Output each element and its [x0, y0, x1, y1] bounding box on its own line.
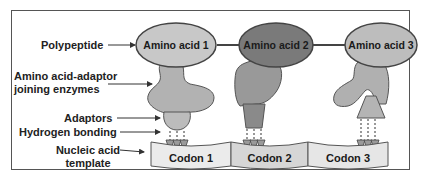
label-template-1: Nucleic acid [53, 144, 123, 157]
adaptor-2 [243, 104, 265, 128]
codon-2-label: Codon 2 [231, 152, 308, 164]
label-joining-enzymes-1: Amino acid-adaptor [14, 70, 117, 83]
label-joining-enzymes-2: joining enzymes [14, 83, 100, 96]
amino-acid-1-label: Amino acid 1 [136, 39, 216, 51]
adaptor-1 [164, 112, 191, 130]
label-adaptors: Adaptors [64, 112, 112, 125]
amino-acid-2-label: Amino acid 2 [239, 39, 313, 51]
template-arrow [120, 150, 144, 152]
amino-acid-3-label: Amino acid 3 [345, 39, 417, 51]
label-hydrogen-bonding: Hydrogen bonding [19, 126, 117, 139]
codon-1-label: Codon 1 [151, 152, 231, 164]
hydrogen-bonds [170, 119, 375, 140]
label-polypeptide: Polypeptide [41, 39, 103, 52]
label-template-2: template [53, 157, 123, 170]
nucleotide-bases [166, 140, 379, 146]
codon-3-label: Codon 3 [308, 152, 388, 164]
